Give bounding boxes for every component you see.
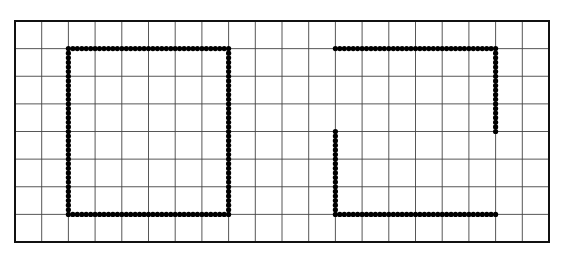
dot — [226, 157, 231, 162]
dot-grid-diagram — [0, 0, 572, 257]
dot — [386, 46, 391, 51]
dot — [417, 212, 422, 217]
dot — [342, 212, 347, 217]
dot — [66, 184, 71, 189]
dot — [115, 212, 120, 217]
dot — [342, 46, 347, 51]
dot — [66, 83, 71, 88]
dot — [493, 111, 498, 116]
dot — [79, 212, 84, 217]
dot — [168, 212, 173, 217]
dot — [88, 212, 93, 217]
dot — [213, 212, 218, 217]
dot — [489, 212, 494, 217]
dot — [204, 46, 209, 51]
dot — [226, 115, 231, 120]
dot — [66, 138, 71, 143]
dot — [66, 120, 71, 125]
dot — [355, 46, 360, 51]
dot — [475, 46, 480, 51]
dot — [400, 212, 405, 217]
dot — [333, 147, 338, 152]
dot — [66, 78, 71, 83]
dot — [226, 207, 231, 212]
dot — [115, 46, 120, 51]
dot — [66, 193, 71, 198]
dot — [106, 212, 111, 217]
dot — [426, 46, 431, 51]
dot — [226, 161, 231, 166]
dot — [133, 212, 138, 217]
dot — [66, 64, 71, 69]
dot — [462, 46, 467, 51]
dot — [333, 184, 338, 189]
dot — [208, 46, 213, 51]
dot — [226, 189, 231, 194]
dot — [333, 207, 338, 212]
dot — [333, 157, 338, 162]
dot — [408, 46, 413, 51]
dot — [493, 129, 498, 134]
dot — [337, 212, 342, 217]
dot — [431, 212, 436, 217]
dot — [66, 147, 71, 152]
dot — [66, 106, 71, 111]
dot — [493, 124, 498, 129]
dot — [66, 74, 71, 79]
dot — [226, 203, 231, 208]
dot — [66, 161, 71, 166]
dot — [226, 92, 231, 97]
dot — [66, 134, 71, 139]
dot — [333, 129, 338, 134]
dot — [66, 60, 71, 65]
dot — [493, 83, 498, 88]
dot — [493, 46, 498, 51]
dot — [493, 106, 498, 111]
dot — [66, 55, 71, 60]
dot — [493, 74, 498, 79]
dot — [75, 46, 80, 51]
dot — [417, 46, 422, 51]
dot — [226, 152, 231, 157]
dot — [408, 212, 413, 217]
dot — [66, 175, 71, 180]
dot — [66, 143, 71, 148]
dot — [208, 212, 213, 217]
dot — [453, 46, 458, 51]
dot — [333, 166, 338, 171]
dot — [471, 212, 476, 217]
dot — [471, 46, 476, 51]
dot — [226, 55, 231, 60]
dot — [489, 46, 494, 51]
dot — [226, 184, 231, 189]
dot — [493, 97, 498, 102]
dot — [66, 207, 71, 212]
dot — [66, 203, 71, 208]
dot — [226, 111, 231, 116]
dot — [333, 180, 338, 185]
dot — [142, 212, 147, 217]
dot — [226, 60, 231, 65]
dot — [177, 212, 182, 217]
dot — [493, 101, 498, 106]
dot — [226, 51, 231, 56]
dot — [75, 212, 80, 217]
dot — [226, 74, 231, 79]
dot — [493, 115, 498, 120]
dot — [66, 97, 71, 102]
dot — [66, 115, 71, 120]
dot — [226, 129, 231, 134]
dot — [226, 193, 231, 198]
dot — [364, 212, 369, 217]
dot — [66, 129, 71, 134]
dot — [333, 143, 338, 148]
grid-lines — [15, 21, 549, 242]
dot — [66, 189, 71, 194]
dot — [226, 175, 231, 180]
dot — [66, 166, 71, 171]
dot — [226, 124, 231, 129]
dot — [333, 198, 338, 203]
dot — [493, 212, 498, 217]
dot — [182, 46, 187, 51]
dot — [66, 51, 71, 56]
